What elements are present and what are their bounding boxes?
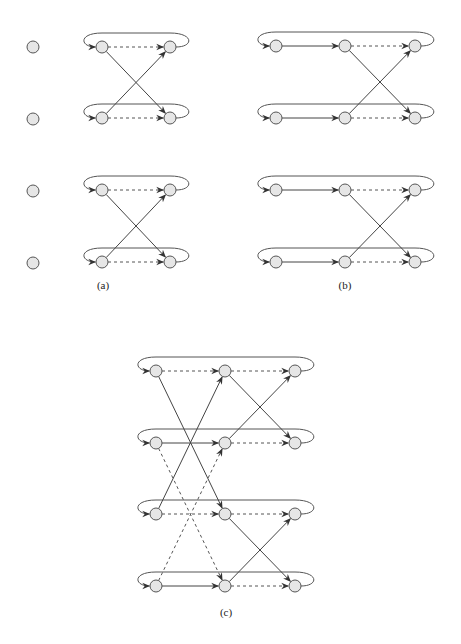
graph-node xyxy=(164,112,176,124)
graph-node xyxy=(409,256,421,268)
isolated-node xyxy=(27,41,39,53)
panel-c: (c) xyxy=(138,357,314,619)
graph-node xyxy=(270,256,282,268)
graph-node xyxy=(219,437,231,449)
graph-node xyxy=(150,580,162,592)
graph-node xyxy=(219,365,231,377)
graph-node xyxy=(289,508,301,520)
graph-node xyxy=(339,256,351,268)
panel-label: (b) xyxy=(339,279,352,292)
graph-node xyxy=(270,184,282,196)
graph-node xyxy=(289,580,301,592)
panel-label: (a) xyxy=(97,279,110,292)
panel-a: (a) xyxy=(27,33,189,292)
isolated-node xyxy=(27,185,39,197)
graph-node xyxy=(96,112,108,124)
graph-node xyxy=(150,508,162,520)
isolated-node xyxy=(27,257,39,269)
graph-node xyxy=(150,437,162,449)
graph-node xyxy=(164,184,176,196)
graph-node xyxy=(339,40,351,52)
graph-node xyxy=(164,41,176,53)
graph-node xyxy=(270,112,282,124)
graph-node xyxy=(409,112,421,124)
graph-node xyxy=(164,256,176,268)
panel-label: (c) xyxy=(220,606,233,619)
cross-edge xyxy=(159,449,223,581)
graph-node xyxy=(270,40,282,52)
graph-node xyxy=(219,580,231,592)
panel-b: (b) xyxy=(258,32,434,292)
diagram-canvas: (a) (b) (c) xyxy=(0,0,461,644)
graph-node xyxy=(339,112,351,124)
graph-node xyxy=(219,508,231,520)
graph-node xyxy=(339,184,351,196)
graph-node xyxy=(289,365,301,377)
isolated-node xyxy=(27,113,39,125)
graph-node xyxy=(409,184,421,196)
graph-node xyxy=(150,365,162,377)
graph-node xyxy=(409,40,421,52)
graph-node xyxy=(96,256,108,268)
graph-node xyxy=(96,184,108,196)
graph-node xyxy=(96,41,108,53)
graph-node xyxy=(289,437,301,449)
